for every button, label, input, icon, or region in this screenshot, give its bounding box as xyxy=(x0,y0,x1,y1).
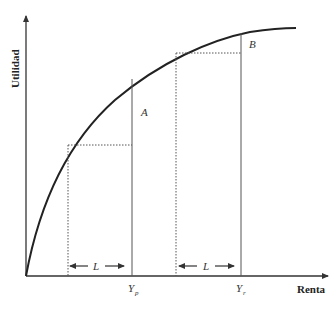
tick-yp-sub: p xyxy=(134,289,139,297)
y-axis-label: Utilidad xyxy=(9,49,21,88)
tick-yr-sub: r xyxy=(243,289,246,297)
left-loss-label: L xyxy=(92,260,99,272)
region-a-label: A xyxy=(140,106,148,118)
right-loss-label: L xyxy=(202,260,209,272)
utility-curve xyxy=(26,28,296,276)
utility-diagram: L L A B Y p Y r Renta Utilidad xyxy=(0,0,335,309)
region-b-label: B xyxy=(249,38,256,50)
x-axis-label: Renta xyxy=(297,283,326,295)
